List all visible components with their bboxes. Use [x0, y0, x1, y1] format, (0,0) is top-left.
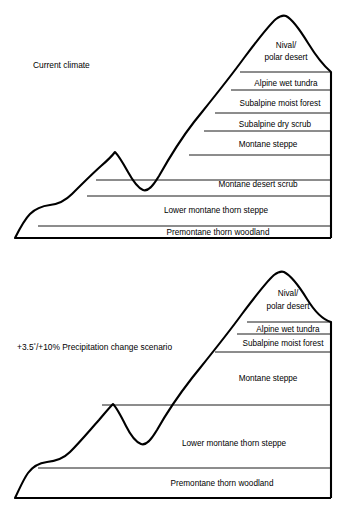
zone-label-montane-steppe: Montane steppe: [239, 140, 298, 149]
caption-change-scenario: +3.5°/+10% Precipitation change scenario: [17, 342, 172, 352]
zone-label-subalpine-dry-scrub: Subalpine dry scrub: [239, 120, 312, 129]
caption-prefix: +3.5: [17, 342, 34, 352]
zone-label-montane-steppe-2: Montane steppe: [239, 374, 298, 383]
figure-canvas: Current climate Nival/ polar desert Alpi…: [0, 0, 355, 515]
zone-label-lower-montane-thorn-steppe-2: Lower montane thorn steppe: [182, 439, 287, 448]
zone-label-alpine-wet-tundra: Alpine wet tundra: [254, 79, 318, 88]
zone-label-premontane-thorn-woodland: Premontane thorn woodland: [167, 228, 270, 237]
zone-label-nival-line2: polar desert: [264, 53, 308, 62]
zone-label-premontane-thorn-woodland-2: Premontane thorn woodland: [171, 479, 274, 488]
zone-label-subalpine-moist-forest: Subalpine moist forest: [239, 99, 321, 108]
zone-label-montane-desert-scrub: Montane desert scrub: [218, 180, 298, 189]
zone-label-lower-montane-thorn-steppe: Lower montane thorn steppe: [164, 206, 269, 215]
zone-label-alpine-wet-tundra-2: Alpine wet tundra: [256, 325, 320, 334]
zone-label-nival-line2-2: polar desert: [266, 302, 310, 311]
zone-label-nival-line1: Nival/: [276, 41, 297, 50]
zone-label-nival-line1-2: Nival/: [278, 289, 299, 298]
zone-boundaries-current: [38, 72, 331, 226]
panel-current-climate: Current climate Nival/ polar desert Alpi…: [0, 0, 355, 260]
panel-change-scenario: +3.5°/+10% Precipitation change scenario…: [0, 258, 355, 515]
caption-current-climate: Current climate: [33, 60, 90, 70]
zone-label-subalpine-moist-forest-2: Subalpine moist forest: [242, 339, 324, 348]
caption-suffix: /+10% Precipitation change scenario: [36, 342, 173, 352]
